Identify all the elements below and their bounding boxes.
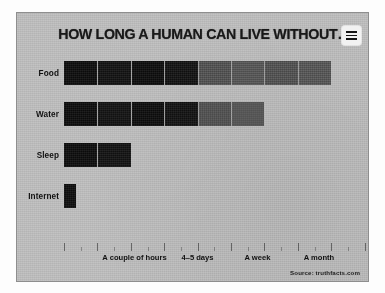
axis-tick-major [298, 243, 299, 251]
bar-segment [64, 143, 97, 167]
y-axis-label-sleep: Sleep [17, 151, 59, 160]
bar-segment [97, 102, 130, 126]
chart-row-sleep: Sleep [17, 143, 369, 167]
chart-row-internet: Internet [17, 184, 369, 208]
page-title: HOW LONG A HUMAN CAN LIVE WITHOUT… [58, 25, 316, 43]
plot-area: FoodWaterSleepInternet [17, 53, 369, 243]
chart-header: HOW LONG A HUMAN CAN LIVE WITHOUT… [17, 23, 369, 49]
axis-tick-minor [348, 247, 349, 251]
y-axis-label-water: Water [17, 110, 59, 119]
axis-tick-major [198, 243, 199, 251]
chart-panel: HOW LONG A HUMAN CAN LIVE WITHOUT… FoodW… [16, 12, 369, 282]
axis-tick-minor [114, 247, 115, 251]
bar-segment [231, 61, 264, 85]
bar-internet[interactable] [64, 184, 76, 208]
bar-segment [164, 102, 197, 126]
axis-tick-major [331, 243, 332, 251]
hamburger-menu-icon[interactable] [342, 26, 361, 45]
bar-segment [198, 61, 231, 85]
x-axis-labels: A couple of hours4–5 daysA weekA month [64, 253, 364, 267]
y-axis-label-food: Food [17, 69, 59, 78]
source-credit: Source: truthfacts.com [290, 269, 360, 276]
scanned-page: HOW LONG A HUMAN CAN LIVE WITHOUT… FoodW… [0, 0, 385, 293]
axis-tick-major [131, 243, 132, 251]
bar-segment [64, 61, 97, 85]
x-axis-tick-label: A month [304, 253, 335, 262]
bar-food[interactable] [64, 61, 331, 85]
axis-tick-minor [81, 247, 82, 251]
hamburger-line-2 [346, 35, 357, 37]
hamburger-line-1 [346, 31, 357, 33]
bar-water[interactable] [64, 102, 264, 126]
x-axis-tick-label: A week [245, 253, 271, 262]
y-axis-label-internet: Internet [17, 192, 59, 201]
bar-segment [298, 61, 331, 85]
axis-tick-major [64, 243, 65, 251]
x-axis-ticks [64, 241, 364, 251]
axis-tick-minor [181, 247, 182, 251]
axis-tick-major [231, 243, 232, 251]
hamburger-line-3 [346, 38, 357, 40]
bar-segment [64, 102, 97, 126]
chart-row-water: Water [17, 102, 369, 126]
bar-segment [97, 143, 130, 167]
bar-segment [64, 184, 76, 208]
bar-sleep[interactable] [64, 143, 131, 167]
bar-segment [198, 102, 231, 126]
axis-tick-major [365, 243, 366, 251]
axis-tick-minor [214, 247, 215, 251]
x-axis-tick-label: 4–5 days [181, 253, 213, 262]
bar-segment [231, 102, 264, 126]
axis-tick-minor [248, 247, 249, 251]
bar-segment [164, 61, 197, 85]
chart-row-food: Food [17, 61, 369, 85]
bar-segment [97, 61, 130, 85]
axis-tick-major [97, 243, 98, 251]
bar-segment [131, 61, 164, 85]
axis-tick-minor [315, 247, 316, 251]
axis-tick-minor [281, 247, 282, 251]
axis-tick-major [264, 243, 265, 251]
bar-segment [131, 102, 164, 126]
axis-tick-minor [148, 247, 149, 251]
x-axis-tick-label: A couple of hours [102, 253, 166, 262]
axis-tick-major [164, 243, 165, 251]
bar-segment [264, 61, 297, 85]
